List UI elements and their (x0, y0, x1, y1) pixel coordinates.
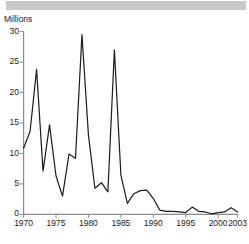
x-axis-tick-labels: 19701975198019851990199520002003 (23, 218, 238, 230)
x-tick-label: 2003 (228, 218, 247, 228)
data-series-line (24, 35, 238, 214)
x-tick-label: 1970 (14, 218, 33, 228)
y-tick-label: 10 (0, 149, 19, 158)
y-tick-label: 30 (0, 27, 19, 36)
cropped-title-band (6, 1, 246, 10)
axis-group (23, 31, 238, 215)
y-axis-ticks (20, 32, 24, 215)
x-tick-label: 2000 (209, 218, 228, 228)
x-tick-label: 1980 (79, 218, 98, 228)
y-tick-label: 25 (0, 57, 19, 66)
x-tick-label: 1975 (47, 218, 66, 228)
plot-area (23, 31, 238, 215)
x-tick-label: 1990 (144, 218, 163, 228)
plot-svg (23, 31, 238, 215)
y-tick-label: 20 (0, 88, 19, 97)
y-tick-label: 5 (0, 179, 19, 188)
x-tick-label: 1995 (176, 218, 195, 228)
cropped-footer-text (24, 233, 234, 243)
chart-figure: Millions 051015202530 197019751980198519… (0, 0, 249, 244)
x-tick-label: 1985 (111, 218, 130, 228)
y-axis-tick-labels: 051015202530 (0, 31, 19, 215)
y-tick-label: 15 (0, 118, 19, 127)
y-axis-unit-label: Millions (4, 14, 32, 24)
